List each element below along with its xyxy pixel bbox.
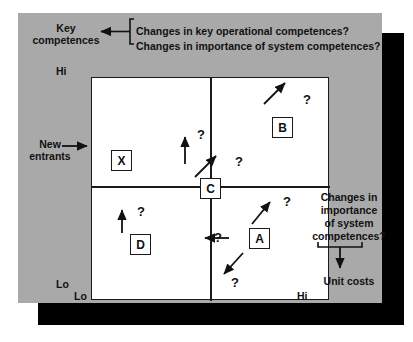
node-d[interactable]: D <box>130 234 151 255</box>
y-axis-hi-label: Hi <box>56 65 67 77</box>
qmark-a-up-right: ? <box>283 194 291 209</box>
node-c[interactable]: C <box>200 178 221 199</box>
node-a[interactable]: A <box>249 228 270 249</box>
right-annotation-line3: of system <box>316 217 382 230</box>
qmark-c-up: ? <box>197 127 205 142</box>
right-annotation-line2: importance <box>316 204 382 217</box>
qmark-a-left: ? <box>214 230 222 245</box>
qmark-b-up-right: ? <box>303 92 311 107</box>
qmark-d-up: ? <box>137 204 145 219</box>
node-x[interactable]: X <box>111 150 132 171</box>
x-axis-lo-label: Lo <box>74 290 87 302</box>
top-annotation-line1: Changes in key operational competences? <box>136 25 349 38</box>
right-annotation-line4: competences? <box>311 230 387 243</box>
y-axis-title: Key competences <box>25 22 107 46</box>
diagram-panel: X B C D A ? ? ? ? ? ? ? Hi Lo Lo Hi Key … <box>18 13 382 303</box>
qmark-c-up-right: ? <box>235 154 243 169</box>
x-axis-title: Unit costs <box>318 275 380 288</box>
y-axis-lo-label: Lo <box>56 278 69 290</box>
top-annotation-line2: Changes in importance of system competen… <box>136 40 380 53</box>
diagram-canvas: X B C D A ? ? ? ? ? ? ? Hi Lo Lo Hi Key … <box>0 0 413 342</box>
x-axis-hi-label: Hi <box>297 290 308 302</box>
right-annotation-line1: Changes in <box>316 191 382 204</box>
new-entrants-label: New entrants <box>20 138 80 162</box>
matrix-plot-area: X B C D A ? ? ? ? ? ? ? <box>91 77 329 300</box>
qmark-a-down-left: ? <box>231 275 239 290</box>
node-b[interactable]: B <box>272 117 293 138</box>
